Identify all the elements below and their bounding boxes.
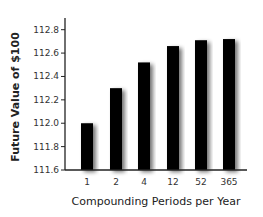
- x-tick-label: 12: [167, 177, 178, 187]
- y-axis-ticks: 111.6111.8112.0112.2112.4112.6112.8: [33, 25, 65, 175]
- y-tick-label: 112.8: [33, 25, 59, 35]
- bar-1: [81, 123, 93, 170]
- y-tick-label: 111.8: [33, 142, 59, 152]
- x-axis-title: Compounding Periods per Year: [72, 195, 241, 208]
- bar-chart: 111.6111.8112.0112.2112.4112.6112.8 1241…: [0, 0, 263, 217]
- bars-group: [81, 39, 235, 170]
- bar-4: [138, 62, 150, 170]
- y-tick-label: 112.0: [33, 118, 59, 128]
- bar-52: [195, 40, 207, 170]
- y-axis-title: Future Value of $100: [9, 32, 22, 162]
- bar-365: [223, 39, 235, 170]
- x-tick-label: 4: [141, 177, 147, 187]
- y-tick-label: 111.6: [33, 165, 59, 175]
- y-tick-label: 112.2: [33, 95, 59, 105]
- y-tick-label: 112.6: [33, 48, 59, 58]
- bar-2: [110, 88, 122, 170]
- x-axis-ticks: 1241252365: [84, 177, 237, 187]
- y-tick-label: 112.4: [33, 71, 59, 81]
- x-tick-label: 2: [113, 177, 119, 187]
- x-tick-label: 365: [220, 177, 237, 187]
- x-tick-label: 52: [195, 177, 206, 187]
- bar-12: [167, 46, 179, 170]
- x-tick-label: 1: [84, 177, 90, 187]
